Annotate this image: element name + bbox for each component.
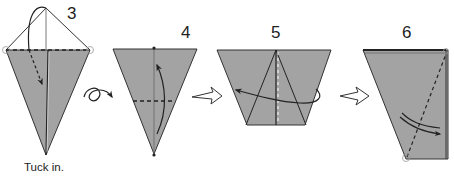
hollow-arrow-icon [192,87,222,104]
step-number: 4 [181,23,190,42]
step-caption: Tuck in. [24,161,64,173]
step-6: 6 [363,23,449,162]
hollow-arrow-icon [340,87,369,105]
step-6-paper [363,50,448,159]
step-3-tuck-arrow [28,7,46,50]
step-number: 5 [271,23,280,42]
step-5: 5 [217,23,331,125]
step-5-paper [217,50,331,125]
turn-over-icon [84,88,112,100]
origami-diagram: 3 Tuck in. 4 5 6 [0,0,454,176]
step-4: 4 [113,23,197,157]
step-3-flap [6,8,90,50]
step-number: 6 [402,23,411,42]
step-number: 3 [67,4,76,23]
step-3: 3 Tuck in. [3,4,94,173]
